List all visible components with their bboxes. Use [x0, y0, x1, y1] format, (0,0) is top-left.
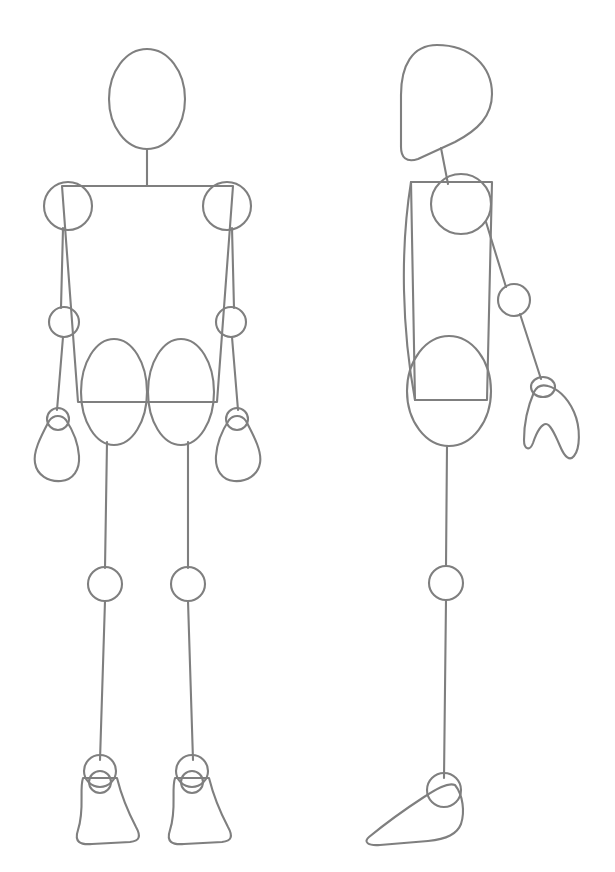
side-hand-claw [524, 385, 579, 458]
side-view-figure [366, 45, 578, 845]
front-forearm-left [57, 337, 63, 410]
side-hip-ellipse [407, 336, 491, 446]
side-elbow-circle [498, 284, 530, 316]
side-forearm [520, 314, 541, 379]
front-shin-right [188, 601, 193, 760]
side-shin [444, 600, 446, 778]
front-hip-right-ellipse [148, 339, 214, 445]
front-shin-left [100, 601, 105, 760]
side-torso-quad [411, 182, 492, 400]
drawing-canvas: Mannequin Figure Construction Reference [0, 0, 615, 872]
front-upper-arm-left [61, 228, 63, 308]
front-heel-left-circle [89, 771, 111, 793]
front-hip-left-ellipse [81, 339, 147, 445]
front-upper-arm-right [232, 228, 234, 308]
front-head-ellipse [109, 49, 185, 149]
front-forearm-right [232, 337, 238, 410]
figure-reference-illustration [0, 0, 615, 872]
front-knee-left-circle [88, 567, 122, 601]
front-heel-right-circle [181, 771, 203, 793]
front-thigh-left [105, 442, 107, 568]
front-shoulder-right-circle [203, 182, 251, 230]
front-elbow-left-circle [49, 307, 79, 337]
front-shoulder-left-circle [44, 182, 92, 230]
front-elbow-right-circle [216, 307, 246, 337]
front-foot-left-shape [77, 778, 139, 844]
side-head-teardrop [401, 45, 492, 160]
front-foot-right-shape [169, 778, 231, 844]
front-hand-right-mitten [216, 416, 260, 481]
side-foot-shape [366, 784, 463, 845]
front-knee-right-circle [171, 567, 205, 601]
side-knee-circle [429, 566, 463, 600]
front-hand-left-mitten [35, 416, 79, 481]
side-thigh [446, 446, 447, 566]
front-view-figure [35, 49, 261, 844]
